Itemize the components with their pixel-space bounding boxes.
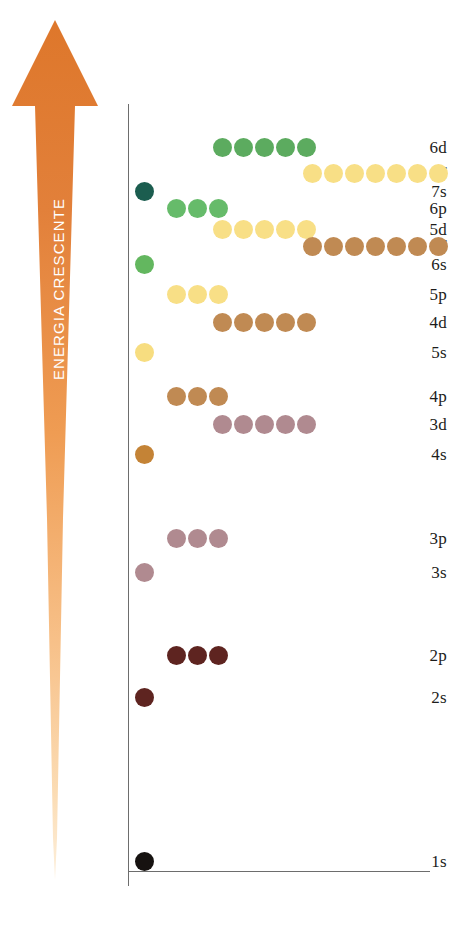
orbital-dot-6d-5 <box>297 138 316 157</box>
orbital-dot-5p-3 <box>209 285 228 304</box>
orbital-row-7s <box>135 182 154 201</box>
orbital-dot-5f-6 <box>408 164 427 183</box>
level-label-5s: 5s <box>335 344 457 361</box>
orbital-dot-5d-3 <box>255 220 274 239</box>
orbital-dot-6p-2 <box>188 199 207 218</box>
level-label-4d: 4d <box>335 314 457 331</box>
level-label-6d: 6d <box>335 139 457 156</box>
orbital-dot-4d-3 <box>255 313 274 332</box>
baseline-axis-horizontal <box>128 871 430 872</box>
orbital-dot-4f-4 <box>366 237 385 256</box>
orbital-dot-5d-1 <box>213 220 232 239</box>
orbital-dot-3p-2 <box>188 529 207 548</box>
orbital-dot-6d-4 <box>276 138 295 157</box>
orbital-row-4p <box>167 387 228 406</box>
orbital-dot-4d-2 <box>234 313 253 332</box>
orbital-row-4d <box>213 313 316 332</box>
orbital-dot-7s-1 <box>135 182 154 201</box>
orbital-dot-3s-1 <box>135 563 154 582</box>
orbital-row-6p <box>167 199 228 218</box>
orbital-dot-5s-1 <box>135 343 154 362</box>
level-label-2s: 2s <box>335 689 457 706</box>
orbital-row-3s <box>135 563 154 582</box>
orbital-row-5d <box>213 220 316 239</box>
level-label-6p: 6p <box>335 200 457 217</box>
level-label-2p: 2p <box>335 647 457 664</box>
orbital-dot-3d-5 <box>297 415 316 434</box>
orbital-dot-3d-3 <box>255 415 274 434</box>
orbital-dot-6d-3 <box>255 138 274 157</box>
orbital-row-4f <box>303 237 448 256</box>
energy-arrow: ENERGIA CRESCENTE <box>0 18 110 880</box>
level-label-6s: 6s <box>335 256 457 273</box>
orbital-dot-3d-2 <box>234 415 253 434</box>
orbital-dot-2p-3 <box>209 646 228 665</box>
orbital-row-1s <box>135 852 154 871</box>
orbital-dot-4p-1 <box>167 387 186 406</box>
orbital-row-6d <box>213 138 316 157</box>
orbital-dot-4s-1 <box>135 445 154 464</box>
orbital-dot-5d-2 <box>234 220 253 239</box>
orbital-dot-3p-1 <box>167 529 186 548</box>
orbital-dot-4f-1 <box>303 237 322 256</box>
orbital-dot-5f-1 <box>303 164 322 183</box>
orbital-dot-5f-5 <box>387 164 406 183</box>
level-label-1s: 1s <box>335 853 457 870</box>
level-label-5p: 5p <box>335 286 457 303</box>
orbital-dot-1s-1 <box>135 852 154 871</box>
orbital-dot-2p-1 <box>167 646 186 665</box>
orbital-dot-5d-4 <box>276 220 295 239</box>
orbital-row-5s <box>135 343 154 362</box>
orbital-dot-4p-3 <box>209 387 228 406</box>
level-label-7s: 7s <box>335 183 457 200</box>
level-label-4s: 4s <box>335 446 457 463</box>
arrow-label: ENERGIA CRESCENTE <box>45 174 71 404</box>
orbital-row-6s <box>135 255 154 274</box>
arrow-shape <box>12 20 98 880</box>
energy-axis-vertical <box>128 104 129 886</box>
orbital-energy-diagram: ENERGIA CRESCENTE 6d5f7s6p5d4f6s5p4d5s4p… <box>0 0 457 946</box>
orbital-dot-5f-4 <box>366 164 385 183</box>
level-label-3d: 3d <box>335 416 457 433</box>
orbital-row-2p <box>167 646 228 665</box>
orbital-row-3d <box>213 415 316 434</box>
orbital-row-5f <box>303 164 448 183</box>
orbital-dot-6s-1 <box>135 255 154 274</box>
orbital-dot-6d-1 <box>213 138 232 157</box>
orbital-dot-6p-1 <box>167 199 186 218</box>
level-label-5d: 5d <box>335 221 457 238</box>
orbital-dot-6d-2 <box>234 138 253 157</box>
orbital-row-3p <box>167 529 228 548</box>
orbital-dot-4d-1 <box>213 313 232 332</box>
orbital-row-2s <box>135 688 154 707</box>
orbital-dot-2p-2 <box>188 646 207 665</box>
orbital-dot-4f-6 <box>408 237 427 256</box>
orbital-dot-6p-3 <box>209 199 228 218</box>
orbital-dot-2s-1 <box>135 688 154 707</box>
orbital-dot-5p-1 <box>167 285 186 304</box>
orbital-dot-4f-5 <box>387 237 406 256</box>
orbital-dot-4d-4 <box>276 313 295 332</box>
orbital-row-4s <box>135 445 154 464</box>
level-label-3s: 3s <box>335 564 457 581</box>
orbital-dot-3p-3 <box>209 529 228 548</box>
orbital-dot-5f-7 <box>429 164 448 183</box>
level-label-4p: 4p <box>335 388 457 405</box>
orbital-dot-5f-3 <box>345 164 364 183</box>
orbital-dot-5f-2 <box>324 164 343 183</box>
orbital-dot-5p-2 <box>188 285 207 304</box>
orbital-dot-4f-3 <box>345 237 364 256</box>
orbital-dot-4f-7 <box>429 237 448 256</box>
orbital-dot-4d-5 <box>297 313 316 332</box>
orbital-row-5p <box>167 285 228 304</box>
orbital-dot-3d-4 <box>276 415 295 434</box>
level-label-3p: 3p <box>335 530 457 547</box>
orbital-dot-4p-2 <box>188 387 207 406</box>
orbital-dot-3d-1 <box>213 415 232 434</box>
orbital-dot-4f-2 <box>324 237 343 256</box>
